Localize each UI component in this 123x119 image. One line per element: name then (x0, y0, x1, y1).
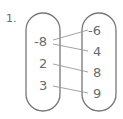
mapping-diagram: 1. -8 2 3 -6 4 8 9 (0, 0, 123, 119)
mapping-line (53, 30, 88, 40)
mapping-line (53, 86, 88, 93)
range-value: -6 (88, 23, 101, 38)
mapping-line (53, 64, 88, 72)
range-value: 8 (93, 65, 101, 80)
domain-value: -8 (34, 34, 47, 49)
domain-value: 2 (39, 56, 47, 71)
mapping-line (53, 44, 88, 51)
range-value: 9 (93, 86, 101, 101)
problem-number: 1. (6, 12, 17, 25)
domain-value: 3 (39, 78, 47, 93)
range-value: 4 (93, 44, 101, 59)
